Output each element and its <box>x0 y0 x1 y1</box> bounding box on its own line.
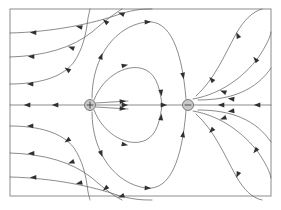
field-line-arrow <box>122 103 129 108</box>
field-line-canvas <box>0 0 281 210</box>
field-line-arrow <box>158 89 164 96</box>
field-line-arrow <box>161 103 168 108</box>
field-lines-group <box>10 9 271 200</box>
field-line-arrow <box>121 62 128 68</box>
field-line <box>10 9 152 33</box>
field-line-arrow <box>52 103 59 108</box>
field-line <box>10 9 90 84</box>
field-line-arrow <box>251 55 259 63</box>
field-line <box>196 114 262 200</box>
positive-charge <box>85 100 96 111</box>
field-line-arrow <box>27 124 34 129</box>
field-line-arrow <box>67 159 75 166</box>
field-line-arrow <box>98 52 105 60</box>
field-line <box>198 68 271 100</box>
field-line <box>92 111 186 188</box>
field-line <box>198 110 271 142</box>
field-line <box>94 106 162 142</box>
field-line-arrow <box>180 72 186 79</box>
field-line-arrow <box>28 151 35 156</box>
electric-field-diagram <box>0 0 281 210</box>
field-line-arrow <box>158 114 164 121</box>
field-line-arrow <box>145 19 152 24</box>
field-line-arrow <box>145 185 152 190</box>
field-line <box>94 68 162 104</box>
field-line-arrow <box>30 175 37 180</box>
field-line-arrow <box>219 88 227 95</box>
field-line <box>92 22 186 99</box>
negative-charge <box>183 100 194 111</box>
field-line <box>10 177 152 200</box>
field-line-arrow <box>30 30 37 35</box>
field-line <box>196 9 262 96</box>
field-line-arrow <box>98 150 105 158</box>
field-line-arrow <box>254 103 261 108</box>
field-line-arrow <box>27 82 34 87</box>
field-line-arrow <box>219 115 227 122</box>
field-line-arrow <box>218 103 225 108</box>
field-line-arrow <box>228 108 235 113</box>
field-line <box>10 126 90 200</box>
field-line-arrow <box>228 96 235 101</box>
field-line-arrow <box>251 147 259 155</box>
field-line-arrow <box>67 44 75 51</box>
field-line-arrow <box>121 142 128 148</box>
field-line-arrow <box>28 54 35 59</box>
field-line-arrow <box>180 130 186 137</box>
field-line-arrow <box>24 103 31 108</box>
